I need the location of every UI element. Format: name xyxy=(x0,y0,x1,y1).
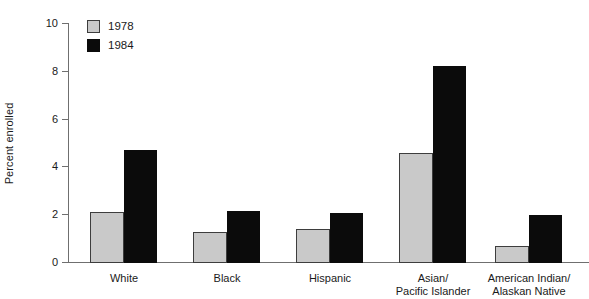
y-axis-tick-label-text: 4 xyxy=(34,161,58,172)
y-axis-tick-label: 2 xyxy=(34,209,58,220)
bar-1978-black xyxy=(193,232,227,263)
legend-label-1978: 1978 xyxy=(108,20,134,33)
y-axis-line xyxy=(68,23,69,263)
y-axis-tick-label-text: 8 xyxy=(34,66,58,77)
y-axis-tick-label: 6 xyxy=(34,114,58,125)
y-axis-tick-label: 8 xyxy=(34,66,58,77)
y-axis-tick-label: 10 xyxy=(34,18,58,29)
x-axis-line xyxy=(68,262,589,263)
y-axis-tick-label-text: 2 xyxy=(34,209,58,220)
y-axis-tick xyxy=(62,166,68,167)
y-axis-tick-label-text: 0 xyxy=(34,257,58,268)
bar-1978-asian-pacific-islander xyxy=(399,153,433,263)
bar-1984-hispanic xyxy=(330,213,363,263)
y-axis-title: Percent enrolled xyxy=(0,0,18,299)
bar-1984-asian-pacific-islander xyxy=(433,66,466,263)
y-axis-tick-label: 0 xyxy=(34,257,58,268)
bar-1978-hispanic xyxy=(296,229,330,263)
bar-chart: Percent enrolled 0246810 WhiteBlackHispa… xyxy=(0,0,589,299)
y-axis-tick xyxy=(62,119,68,120)
y-axis-tick-label-text: 10 xyxy=(34,18,58,29)
bar-1978-american-indian-alaskan-native xyxy=(495,246,529,263)
legend-label-1984: 1984 xyxy=(108,39,134,52)
bar-1978-white xyxy=(90,212,124,263)
legend-swatch-1984-icon xyxy=(87,39,100,52)
bar-1984-black xyxy=(227,211,260,263)
bar-1984-white xyxy=(124,150,157,263)
y-axis-tick xyxy=(62,214,68,215)
legend-item-1984[interactable]: 1984 xyxy=(87,36,134,54)
y-axis-tick xyxy=(62,71,68,72)
bar-1984-american-indian-alaskan-native xyxy=(529,215,562,263)
y-axis-title-text: Percent enrolled xyxy=(0,0,18,299)
y-axis-tick xyxy=(62,262,68,263)
y-axis-tick xyxy=(62,23,68,24)
legend-swatch-1978-icon xyxy=(87,20,100,33)
y-axis-tick-label: 4 xyxy=(34,161,58,172)
legend: 1978 1984 xyxy=(87,17,134,55)
legend-item-1978[interactable]: 1978 xyxy=(87,17,134,35)
x-axis-label-american-indian-alaskan-native: American Indian/ Alaskan Native xyxy=(464,272,589,298)
y-axis-tick-label-text: 6 xyxy=(34,114,58,125)
